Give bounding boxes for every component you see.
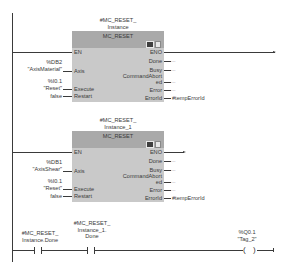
done-operand-2[interactable]: ... bbox=[171, 157, 176, 163]
contact-1-left[interactable] bbox=[34, 247, 35, 254]
axis-operand-1[interactable]: %DB2 "AxisMaterial" bbox=[20, 59, 62, 72]
error-wire-2 bbox=[164, 190, 171, 191]
pin-errorid: ErrorId bbox=[145, 95, 162, 101]
en-wire-2 bbox=[12, 152, 72, 153]
pin-axis: Axis bbox=[74, 168, 85, 174]
execute-operand-2[interactable]: %I0.1 "Reset" bbox=[20, 178, 62, 191]
pin-restart: Restart bbox=[74, 193, 92, 199]
pin-error: Error bbox=[150, 187, 162, 193]
eno-arrow-1 bbox=[273, 51, 276, 53]
restart-operand-1[interactable]: false bbox=[20, 93, 62, 100]
axis-wire-2 bbox=[63, 171, 72, 172]
execute-wire-1 bbox=[63, 89, 72, 90]
pin-done: Done bbox=[149, 158, 162, 164]
restart-wire-2 bbox=[63, 196, 72, 197]
instance-db-label-2: #MC_RESET_ Instance_1 bbox=[88, 117, 148, 130]
mc-reset-block-1[interactable]: MC_RESET EN Axis Execute Restart ENO Don… bbox=[72, 31, 164, 102]
errorid-wire-2 bbox=[164, 198, 171, 199]
diagnostics-icon[interactable] bbox=[155, 41, 161, 48]
done-operand-1[interactable]: ... bbox=[171, 57, 176, 63]
pin-eno: ENO bbox=[150, 149, 162, 155]
block-type: MC_RESET bbox=[72, 133, 164, 139]
pin-eno: ENO bbox=[150, 49, 162, 55]
block-type: MC_RESET bbox=[72, 33, 164, 39]
left-power-rail bbox=[12, 13, 13, 262]
rung3-wire-a bbox=[12, 250, 34, 251]
pin-command-aborted: CommandAbort ed bbox=[123, 173, 162, 185]
coil-left-paren[interactable]: ( bbox=[243, 246, 246, 254]
technology-object-icon[interactable] bbox=[146, 41, 154, 48]
errorid-operand-1[interactable]: #tempErrorId bbox=[172, 95, 205, 101]
errorid-wire-1 bbox=[164, 98, 171, 99]
done-wire-2 bbox=[164, 161, 171, 162]
error-wire-1 bbox=[164, 90, 171, 91]
busy-operand-1[interactable]: ... bbox=[171, 66, 176, 72]
mc-reset-block-2[interactable]: MC_RESET EN Axis Execute Restart ENO Don… bbox=[72, 131, 164, 202]
eno-wire-1 bbox=[164, 52, 275, 53]
busy-wire-1 bbox=[164, 70, 171, 71]
rung3-wire-d bbox=[257, 250, 273, 251]
aborted-operand-1[interactable]: ... bbox=[171, 78, 176, 84]
done-wire-1 bbox=[164, 61, 171, 62]
axis-wire-1 bbox=[63, 71, 72, 72]
contact-2-label: #MC_RESET_ Instance_1. Done bbox=[66, 220, 118, 240]
pin-axis: Axis bbox=[74, 68, 85, 74]
pin-restart: Restart bbox=[74, 93, 92, 99]
eno-wire-2 bbox=[164, 152, 184, 153]
coil-right-paren[interactable]: ) bbox=[253, 246, 256, 254]
instance-db-label-1: #MC_RESET_ Instance bbox=[88, 17, 148, 30]
error-operand-1[interactable]: ... bbox=[171, 86, 176, 92]
pin-execute: Execute bbox=[74, 86, 94, 92]
error-operand-2[interactable]: ... bbox=[171, 186, 176, 192]
restart-operand-2[interactable]: false bbox=[20, 193, 62, 200]
axis-operand-2[interactable]: %DB1 "AxisShear" bbox=[20, 159, 62, 172]
diagnostics-icon[interactable] bbox=[155, 141, 161, 148]
pin-done: Done bbox=[149, 58, 162, 64]
contact-1-label: #MC_RESET_ Instance.Done bbox=[14, 230, 66, 243]
coil-label: %Q0.1 "Tag_2" bbox=[232, 229, 262, 242]
pin-en: EN bbox=[74, 149, 82, 155]
aborted-wire-2 bbox=[164, 182, 171, 183]
rung3-wire-c bbox=[94, 250, 243, 251]
en-wire-1 bbox=[12, 52, 72, 53]
contact-2-left[interactable] bbox=[87, 247, 88, 254]
block-header: MC_RESET bbox=[72, 31, 164, 48]
pin-errorid: ErrorId bbox=[145, 195, 162, 201]
block-header: MC_RESET bbox=[72, 131, 164, 148]
rung3-wire-b bbox=[41, 250, 87, 251]
busy-wire-2 bbox=[164, 170, 171, 171]
block-icons bbox=[146, 41, 161, 48]
pin-command-aborted: CommandAbort ed bbox=[123, 73, 162, 85]
execute-operand-1[interactable]: %I0.1 "Reset" bbox=[20, 78, 62, 91]
block-icons bbox=[146, 141, 161, 148]
rung3-end-tick bbox=[273, 248, 274, 252]
eno-arrow-2 bbox=[183, 151, 186, 153]
aborted-operand-2[interactable]: ... bbox=[171, 178, 176, 184]
aborted-wire-1 bbox=[164, 82, 171, 83]
execute-wire-2 bbox=[63, 189, 72, 190]
pin-error: Error bbox=[150, 87, 162, 93]
technology-object-icon[interactable] bbox=[146, 141, 154, 148]
pin-execute: Execute bbox=[74, 186, 94, 192]
restart-wire-1 bbox=[63, 96, 72, 97]
pin-en: EN bbox=[74, 49, 82, 55]
errorid-operand-2[interactable]: #tempErrorId bbox=[172, 195, 205, 201]
busy-operand-2[interactable]: ... bbox=[171, 166, 176, 172]
